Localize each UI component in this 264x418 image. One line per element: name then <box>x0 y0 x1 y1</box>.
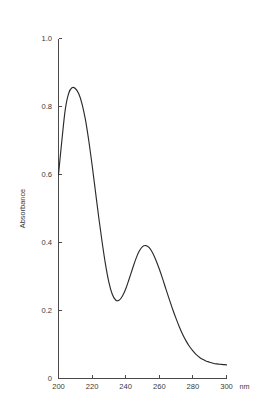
x-axis-unit-label: nm <box>240 382 250 391</box>
x-tick-label: 280 <box>187 382 200 391</box>
absorbance-spectrum-chart: 200220240260280300 00.20.40.60.81.0 nm A… <box>0 0 264 418</box>
x-axis-tick-labels: 200220240260280300 <box>52 382 233 391</box>
x-tick-label: 200 <box>52 382 65 391</box>
y-tick-label: 0 <box>48 374 52 383</box>
y-tick-label: 0.8 <box>41 102 52 111</box>
y-tick-label: 0.4 <box>41 238 52 247</box>
x-tick-label: 220 <box>86 382 99 391</box>
x-axis-tick-marks <box>59 375 227 379</box>
y-tick-label: 0.6 <box>41 170 52 179</box>
y-tick-label: 1.0 <box>41 34 52 43</box>
x-tick-label: 240 <box>119 382 132 391</box>
y-tick-label: 0.2 <box>41 306 52 315</box>
y-axis-tick-labels: 00.20.40.60.81.0 <box>41 34 52 383</box>
y-axis-title: Absorbance <box>18 189 27 228</box>
absorbance-curve <box>59 87 227 365</box>
x-tick-label: 260 <box>153 382 166 391</box>
chart-svg: 200220240260280300 00.20.40.60.81.0 nm A… <box>0 0 264 418</box>
axis-lines <box>59 39 227 379</box>
x-tick-label: 300 <box>220 382 233 391</box>
axes-group <box>59 39 227 379</box>
